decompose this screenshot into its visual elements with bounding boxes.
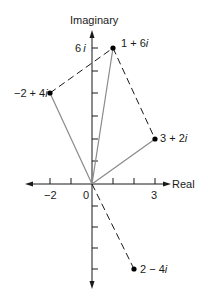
arrow-left-icon [25,182,33,187]
dashed-edge-left [50,48,113,93]
dashed-edges [50,48,155,269]
three-tick-label: 3 [151,189,157,201]
vectors [50,48,155,184]
six-i-tick-label: 6i [75,42,86,54]
arrow-down-icon [90,281,95,289]
points [47,45,157,271]
point-3-plus-2i [152,136,157,141]
vector-neg2-plus-4i [50,93,92,184]
point-label-1-plus-6i: 1 + 6i [121,37,149,49]
imaginary-axis-label: Imaginary [70,14,119,26]
dashed-edge-lower [92,184,134,269]
neg-two-tick-label: −2 [44,189,57,201]
imaginary-axis [90,30,99,289]
point-neg2-plus-4i [47,90,52,95]
vector-3-plus-2i [92,139,155,184]
point-1-plus-6i [110,45,115,50]
point-label-2-minus-4i: 2 − 4i [140,263,168,275]
arrow-up-icon [90,30,95,38]
point-label-3-plus-2i: 3 + 2i [160,132,188,144]
point-label-neg2-plus-4i: −2 + 4i [14,87,48,99]
real-axis-label: Real [172,178,195,190]
arrow-right-icon [163,182,171,187]
origin-label: 0 [83,189,89,201]
point-2-minus-4i [131,266,136,271]
dashed-edge-right [113,48,155,139]
complex-plane-diagram: Imaginary Real 6i −2 0 3 1 + 6i −2 + 4i … [0,0,208,302]
